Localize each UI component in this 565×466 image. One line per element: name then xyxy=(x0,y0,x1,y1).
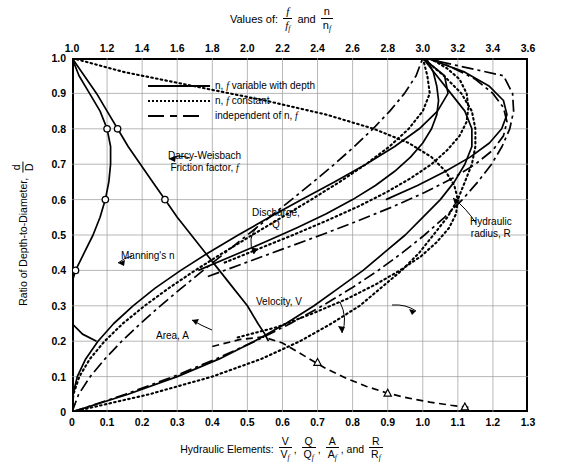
area-label: Area, A xyxy=(156,330,189,342)
denominator-sub: f xyxy=(335,453,337,462)
denominator-sub: f xyxy=(379,453,381,462)
separator: , xyxy=(294,443,300,455)
velocity-label: Velocity, V xyxy=(256,296,302,308)
annotation-line-1: Darcy-Weisbach xyxy=(168,150,241,162)
numerator: A xyxy=(326,435,339,448)
y-axis-title: Ratio of Depth-to-Diameter, d D xyxy=(11,43,36,423)
D-denominator: D xyxy=(24,161,36,173)
x-axis-title-conjunction: and xyxy=(347,443,367,455)
denominator-base: V xyxy=(281,448,288,460)
d-numerator: d xyxy=(10,161,23,173)
annotation-line-1: Area, A xyxy=(156,330,189,342)
denominator-base: R xyxy=(371,448,379,460)
denominator: Rf xyxy=(369,448,383,463)
numerator: V xyxy=(279,435,292,448)
denominator-sub: f xyxy=(288,453,290,462)
annotation-line-2-text: Friction factor, xyxy=(170,162,236,173)
annotation-line-1: Velocity, V xyxy=(256,296,302,308)
annotation-line-1: Manning's n xyxy=(121,250,175,262)
denominator: Af xyxy=(326,448,339,463)
darcy-weisbach-label: Darcy-WeisbachFriction factor, f xyxy=(168,150,241,173)
denominator: Vf xyxy=(279,448,292,463)
numerator: Q xyxy=(302,435,316,448)
d-over-D-fraction: d D xyxy=(10,161,35,173)
numerator: R xyxy=(369,435,383,448)
fraction-q-over-qf: QQf xyxy=(302,435,316,463)
x-axis-title: Hydraulic Elements: VVf, QQf, AAf, and R… xyxy=(0,436,565,464)
annotation-line-2: radius, R xyxy=(470,228,512,240)
annotation-line-2-italic: f xyxy=(236,162,239,173)
separator: , xyxy=(318,443,324,455)
x-axis-title-prefix: Hydraulic Elements: xyxy=(180,443,276,455)
annotation-line-2: Q xyxy=(252,219,300,231)
annotation-line-2-text: radius, R xyxy=(471,228,511,239)
hydraulic-radius-label: Hydraulicradius, R xyxy=(470,216,512,239)
annotation-line-2: Friction factor, f xyxy=(168,162,241,174)
denominator-sub: f xyxy=(312,453,314,462)
curve-annotations: Darcy-WeisbachFriction factor, fDischarg… xyxy=(0,0,565,466)
denominator-base: A xyxy=(328,448,335,460)
fraction-a-over-af: AAf xyxy=(326,435,339,463)
y-axis-title-prefix: Ratio of Depth-to-Diameter, xyxy=(17,178,29,306)
mannings-n-label: Manning's n xyxy=(121,250,175,262)
denominator-base: Q xyxy=(304,448,312,460)
denominator: Qf xyxy=(302,448,316,463)
annotation-line-1: Hydraulic xyxy=(470,216,512,228)
fraction-v-over-vf: VVf xyxy=(279,435,292,463)
annotation-line-1: Discharge, xyxy=(252,207,300,219)
discharge-label: Discharge,Q xyxy=(252,207,300,230)
hydraulic-elements-chart: Values of: f ff and n nf 1.01.21.41.61.8… xyxy=(0,0,565,466)
fraction-r-over-rf: RRf xyxy=(369,435,383,463)
annotation-line-2-text: Q xyxy=(272,219,280,230)
